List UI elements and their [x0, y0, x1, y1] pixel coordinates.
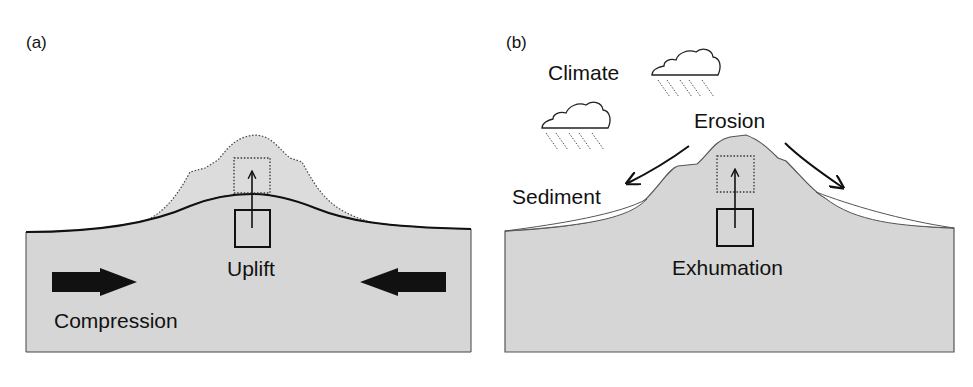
figure-canvas: (a) Uplift Compression (b) Climate [0, 0, 973, 387]
rain-cloud-icon [542, 102, 610, 150]
panel-b-label: (b) [506, 33, 527, 52]
panel-a: (a) Uplift Compression [26, 33, 471, 352]
sediment-label: Sediment [512, 185, 601, 208]
panel-b: (b) Climate Erosion [505, 33, 954, 352]
compression-label: Compression [54, 309, 178, 332]
erosion-label: Erosion [694, 109, 765, 132]
exhumation-label: Exhumation [672, 256, 783, 279]
rain-cloud-icon [652, 49, 720, 97]
climate-label: Climate [548, 61, 619, 84]
panel-a-label: (a) [26, 33, 47, 52]
crust-block [505, 135, 954, 352]
uplift-label: Uplift [227, 257, 275, 280]
